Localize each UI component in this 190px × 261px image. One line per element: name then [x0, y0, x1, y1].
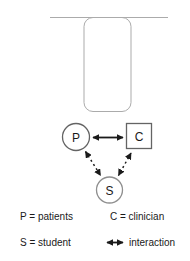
legend-patients: P = patients	[20, 211, 73, 222]
diagram-figure: P C S P = patients C = clinician S = stu…	[0, 0, 190, 261]
clinician-node-label: C	[135, 130, 144, 144]
student-node-label: S	[105, 184, 113, 198]
patient-node-label: P	[72, 131, 80, 145]
diagram-canvas: P C S P = patients C = clinician S = stu…	[0, 0, 190, 261]
patient-student-arrow	[86, 152, 101, 176]
clinician-student-arrow	[119, 153, 132, 176]
legend-student: S = student	[20, 237, 71, 248]
legend-interaction: interaction	[129, 237, 175, 248]
legend-clinician: C = clinician	[110, 211, 164, 222]
rounded-rect-object	[84, 18, 131, 112]
